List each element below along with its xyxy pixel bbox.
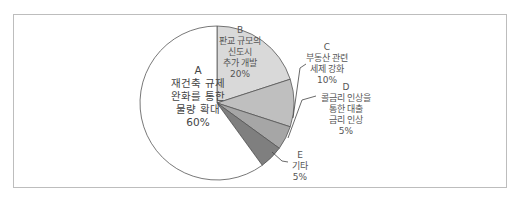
slice-label-c: C 부동산 관련 세제 강화 10% [297, 42, 357, 86]
slice-label-d: D 콜금리 인상을 통한 대출 금리 인상 5% [308, 82, 384, 137]
slice-label-b: B 판교 규모의 신도시 추가 개발 20% [208, 25, 272, 80]
slice-label-e: E 기타 5% [280, 150, 320, 183]
